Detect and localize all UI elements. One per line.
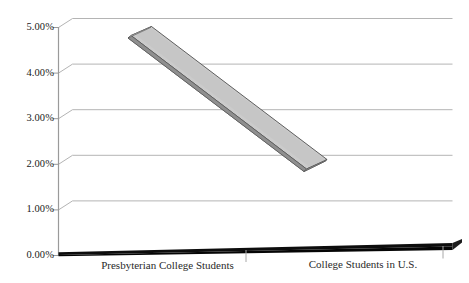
- gridline-4: [59, 64, 453, 73]
- chart-container: 5.00% 4.00% 3.00% 2.00% 1.00% 0.00% Pres…: [0, 0, 469, 283]
- value-axis-labels: 5.00% 4.00% 3.00% 2.00% 1.00% 0.00%: [0, 0, 54, 283]
- category-label-presbyterian-college-students: Presbyterian College Students: [70, 260, 265, 271]
- chart-floor: [59, 239, 463, 256]
- ytick-label-1: 1.00%: [2, 204, 54, 215]
- ytick-label-4: 4.00%: [2, 68, 54, 79]
- ytick-label-0: 0.00%: [2, 250, 54, 261]
- data-series-ribbon: [128, 27, 327, 172]
- ytick-label-2: 2.00%: [2, 159, 54, 170]
- gridline-5: [59, 19, 453, 28]
- chart-plot-area: [0, 0, 469, 283]
- ytick-label-5: 5.00%: [2, 22, 54, 33]
- ytick-label-3: 3.00%: [2, 113, 54, 124]
- category-label-college-students-in-us: College Students in U.S.: [268, 259, 458, 270]
- gridline-2: [59, 155, 453, 164]
- gridline-1: [59, 201, 453, 210]
